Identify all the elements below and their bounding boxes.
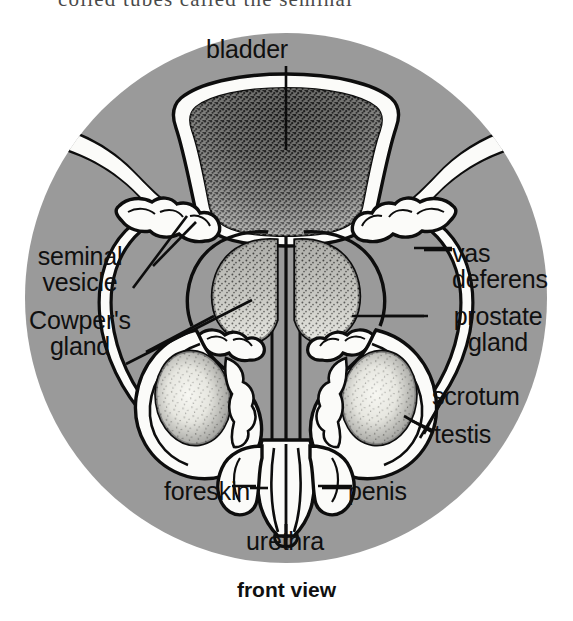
- label-vas-deferens: vas deferens: [452, 240, 572, 292]
- label-urethra: urethra: [215, 528, 355, 554]
- label-prostate-gland: prostate gland: [426, 303, 570, 355]
- label-scrotum: scrotum: [432, 383, 572, 409]
- label-seminal-vesicle: seminal vesicle: [14, 243, 146, 295]
- label-cowpers-gland: Cowper's gland: [10, 307, 150, 359]
- label-penis: penis: [348, 478, 458, 504]
- label-testis: testis: [434, 421, 554, 447]
- figure-caption: front view: [0, 577, 573, 603]
- label-bladder: bladder: [206, 36, 366, 62]
- anatomy-figure: bladder seminal vesicle Cowper's gland v…: [0, 0, 573, 621]
- label-foreskin: foreskin: [120, 478, 250, 504]
